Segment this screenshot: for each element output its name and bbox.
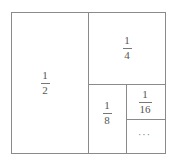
denominator: 8 bbox=[104, 115, 110, 126]
region-quarter-label: 1 4 bbox=[121, 35, 133, 61]
region-rest-label: ··· bbox=[138, 129, 151, 140]
region-sixteenth-label: 1 16 bbox=[137, 89, 153, 115]
numerator: 1 bbox=[104, 100, 110, 111]
outer-border-left bbox=[11, 12, 12, 154]
region-eighth-label: 1 8 bbox=[101, 100, 113, 126]
divider-sixteenth bbox=[126, 119, 166, 120]
denominator: 4 bbox=[124, 50, 130, 61]
region-half-label: 1 2 bbox=[39, 70, 51, 96]
partitioned-square-diagram: 1 2 1 4 1 8 1 16 ··· bbox=[0, 0, 175, 162]
denominator: 16 bbox=[140, 104, 151, 115]
numerator: 1 bbox=[142, 89, 148, 100]
numerator: 1 bbox=[42, 70, 48, 81]
divider-half bbox=[88, 12, 89, 154]
outer-border-right bbox=[165, 12, 166, 154]
numerator: 1 bbox=[124, 35, 130, 46]
denominator: 2 bbox=[42, 85, 48, 96]
divider-quarter bbox=[88, 84, 166, 85]
